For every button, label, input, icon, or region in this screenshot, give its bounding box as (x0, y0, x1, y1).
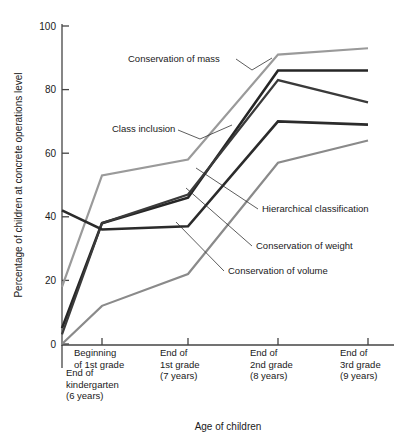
line-chart: 020406080100 Conservation of massClass i… (0, 0, 414, 440)
y-tick-label: 60 (45, 148, 57, 159)
x-axis-title: Age of children (195, 421, 262, 432)
annotation-label-class-inclusion: Class inclusion (112, 123, 175, 134)
x-category-label-2: 1st grade (160, 359, 200, 370)
annotation-label-hierarchical-classification: Hierarchical classification (262, 203, 369, 214)
y-tick-label: 100 (39, 21, 56, 32)
y-axis-title: Percentage of children at concrete opera… (13, 72, 24, 297)
annotation-label-conservation-of-mass: Conservation of mass (128, 53, 220, 64)
x-category-label-4: (9 years) (340, 370, 377, 381)
x-category-label-3: End of (250, 347, 278, 358)
y-tick-label: 80 (45, 84, 57, 95)
y-tick-label: 40 (45, 211, 57, 222)
annotation-label-conservation-of-volume: Conservation of volume (228, 265, 328, 276)
x-category-label-4: End of (340, 347, 368, 358)
chart-container: 020406080100 Conservation of massClass i… (0, 0, 414, 440)
x-category-label-1: Beginning (74, 347, 116, 358)
x-category-label-0: kindergarten (66, 379, 119, 390)
x-category-label-0: (6 years) (66, 390, 103, 401)
x-category-label-3: (8 years) (250, 370, 287, 381)
x-category-label-1: of 1st grade (74, 359, 124, 370)
annotation-label-conservation-of-weight: Conservation of weight (256, 240, 353, 251)
x-category-label-4: 3rd grade (340, 359, 381, 370)
y-tick-label: 0 (50, 339, 56, 350)
x-category-label-2: (7 years) (160, 370, 197, 381)
x-category-label-3: 2nd grade (250, 359, 293, 370)
y-tick-label: 20 (45, 275, 57, 286)
x-category-label-2: End of (160, 347, 188, 358)
